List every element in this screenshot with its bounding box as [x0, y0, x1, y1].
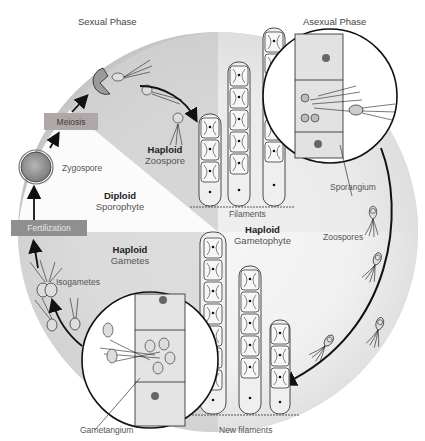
diploid-sporophyte-label: Diploid Sporophyte — [90, 190, 150, 213]
haploid-gametes-label: Haploid Gametes — [105, 244, 155, 267]
sporangium-magnified — [263, 29, 397, 163]
gametangium-magnified — [82, 292, 218, 428]
haploid-gametes-name: Gametes — [105, 255, 155, 266]
haploid-gametophyte-ploidy: Haploid — [230, 224, 295, 235]
asexual-phase-label: Asexual Phase — [303, 17, 366, 27]
zoospores-label: Zoospores — [323, 233, 363, 242]
sporangium-label: Sporangium — [330, 183, 376, 192]
sexual-phase-label: Sexual Phase — [78, 17, 137, 27]
filaments-label: Filaments — [229, 210, 266, 219]
new-filaments-label: New filaments — [219, 426, 272, 435]
diploid-ploidy: Diploid — [90, 190, 150, 201]
haploid-zoospore-name: Zoospore — [140, 155, 190, 166]
diploid-name: Sporophyte — [90, 201, 150, 212]
zygospore-label: Zygospore — [62, 164, 102, 173]
haploid-gametes-ploidy: Haploid — [105, 244, 155, 255]
haploid-zoospore-label: Haploid Zoospore — [140, 144, 190, 167]
gametangium-label: Gametangium — [80, 426, 133, 435]
haploid-gametophyte-label: Haploid Gametophyte — [230, 224, 295, 247]
fertilization-box: Fertilization — [11, 220, 87, 236]
haploid-zoospore-ploidy: Haploid — [140, 144, 190, 155]
meiosis-box: Meiosis — [44, 113, 98, 130]
isogametes-label: Isogametes — [56, 278, 100, 287]
zygospore-cell — [19, 150, 53, 184]
haploid-gametophyte-name: Gametophyte — [230, 235, 295, 246]
